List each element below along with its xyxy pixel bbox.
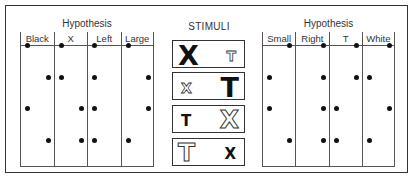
hypothesis-column: Large [121,32,155,166]
response-dot [321,138,326,143]
response-dot [321,75,326,80]
response-dot [354,75,359,80]
response-dot [321,106,326,111]
left-hypothesis-table: BlackXLeftLarge [20,32,154,167]
stimulus-glyph-x: X [181,81,192,95]
hypothesis-column: White [362,32,395,166]
stimulus-glyph-x: X [220,107,239,132]
response-dot [126,138,131,143]
response-dot [287,138,292,143]
response-dot [126,43,131,48]
response-dot [367,75,372,80]
stimulus-glyph-t: T [226,49,236,63]
response-dot [25,43,30,48]
left-hypothesis-title: Hypothesis [20,18,154,29]
response-dot [334,138,339,143]
stimulus-card: TX [172,138,245,166]
response-dot [267,106,272,111]
stimulus-glyph-x: X [178,42,199,69]
stimulus-glyph-t: T [181,114,191,129]
response-dot [387,106,392,111]
response-dot [367,138,372,143]
stimulus-card: TX [172,105,245,133]
hypothesis-column: Left [87,32,121,166]
response-dot [79,138,84,143]
response-dot [79,106,84,111]
response-dot [287,43,292,48]
stimulus-glyph-t: T [178,140,195,165]
response-dot [59,75,64,80]
right-hypothesis-title: Hypothesis [262,18,395,29]
response-dot [92,43,97,48]
stimulus-glyph-x: X [224,147,236,162]
stimulus-glyph-t: T [221,74,239,101]
stimulus-card: XT [172,40,245,68]
response-dot [46,75,51,80]
hypothesis-column: T [329,32,362,166]
response-dot [146,75,151,80]
response-dot [146,106,151,111]
response-dot [354,43,359,48]
response-dot [387,43,392,48]
stimuli-title: STIMULI [172,21,246,32]
response-dot [59,43,64,48]
hypothesis-column: X [54,32,88,166]
response-dot [25,106,30,111]
stimulus-card: XT [172,72,245,100]
response-dot [92,106,97,111]
response-dot [46,138,51,143]
response-dot [321,43,326,48]
response-dot [334,106,339,111]
hypothesis-column: Right [295,32,328,166]
response-dot [92,75,97,80]
response-dot [92,138,97,143]
right-hypothesis-table: SmallRightTWhite [262,32,395,167]
response-dot [267,75,272,80]
hypothesis-column: Black [20,32,54,166]
hypothesis-column: Small [262,32,295,166]
